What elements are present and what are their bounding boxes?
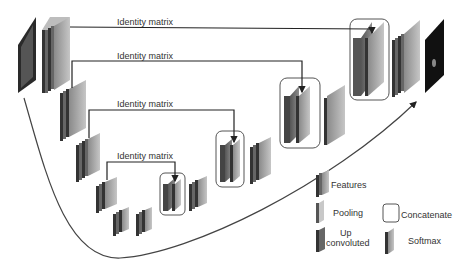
skip-label-1: Identity matrix bbox=[117, 17, 174, 27]
unet-diagram: Identity matrix Identity matrix Identity… bbox=[0, 0, 465, 275]
encoder-features-level1 bbox=[42, 17, 70, 93]
bottleneck-features bbox=[113, 207, 152, 236]
encoder-features-level3 bbox=[76, 133, 100, 182]
decoder-level4 bbox=[160, 173, 207, 215]
legend-pooling: Pooling bbox=[316, 200, 363, 223]
encoder-features-level4 bbox=[96, 177, 117, 213]
encoder-features-level2 bbox=[60, 80, 86, 141]
legend-upconv-label-2: convoluted bbox=[326, 238, 370, 248]
legend-upconv-label-1: Up bbox=[340, 228, 352, 238]
skip-connection-3 bbox=[89, 110, 234, 142]
legend-softmax-label: Softmax bbox=[408, 236, 442, 246]
skip-connection-2 bbox=[72, 61, 302, 92]
input-image bbox=[18, 17, 36, 93]
legend-features: Features bbox=[316, 170, 367, 197]
decoder-level2 bbox=[280, 78, 345, 148]
decoder-level1 bbox=[350, 19, 420, 100]
skip-connection-1 bbox=[70, 27, 372, 33]
legend-pooling-label: Pooling bbox=[333, 208, 363, 218]
skip-label-2: Identity matrix bbox=[117, 51, 174, 61]
skip-label-4: Identity matrix bbox=[117, 151, 174, 161]
legend-softmax: Softmax bbox=[385, 228, 442, 254]
decoder-level3 bbox=[216, 131, 271, 187]
skip-connection-4 bbox=[107, 162, 175, 181]
output-segmentation bbox=[425, 19, 444, 93]
legend-up-convoluted: Up convoluted bbox=[316, 227, 370, 252]
legend-concatenate-label: Concatenate bbox=[401, 210, 452, 220]
legend: Features Pooling Up convoluted Concatena… bbox=[316, 170, 452, 254]
legend-features-label: Features bbox=[331, 180, 367, 190]
skip-label-3: Identity matrix bbox=[117, 99, 174, 109]
legend-concatenate: Concatenate bbox=[383, 204, 452, 222]
